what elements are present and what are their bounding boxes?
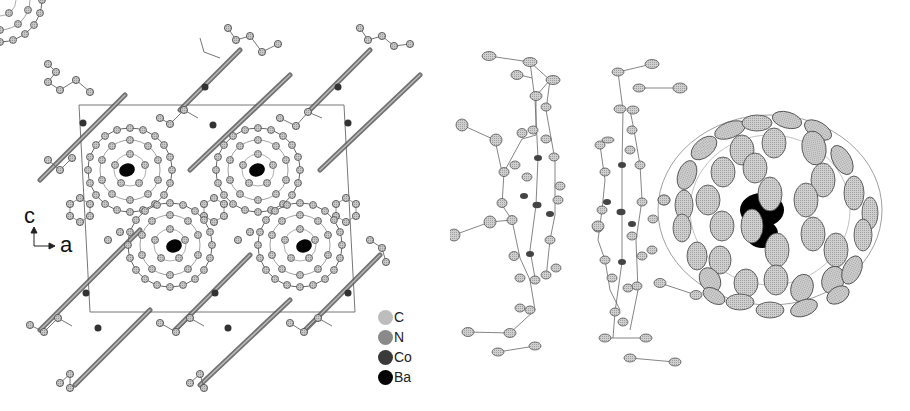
axis-label-c: c [24, 203, 35, 229]
cobalt-swatch-icon [378, 350, 393, 365]
ortep-diagram [450, 0, 910, 411]
axis-label-a: a [60, 232, 72, 258]
legend-item-carbon: C [378, 307, 412, 327]
endohedral-fullerene [658, 108, 882, 320]
legend-label: C [394, 309, 404, 325]
element-legend: C N Co Ba [378, 307, 412, 387]
legend-label: Co [394, 349, 412, 365]
nitrogen-swatch-icon [378, 330, 393, 345]
carbon-swatch-icon [378, 310, 393, 325]
porphyrin-molecule-1 [450, 52, 565, 357]
porphyrin-2-metal-nitrogen [603, 162, 636, 265]
crystal-packing-panel: c a C N Co Ba [0, 0, 450, 411]
legend-item-nitrogen: N [378, 327, 412, 347]
ortep-panel [450, 0, 910, 411]
axis-indicator [31, 227, 55, 249]
porphyrin-chains [26, 24, 420, 391]
legend-label: Ba [394, 369, 411, 385]
legend-label: N [394, 329, 404, 345]
legend-item-barium: Ba [378, 367, 412, 387]
barium-swatch-icon [378, 370, 393, 385]
legend-item-cobalt: Co [378, 347, 412, 367]
